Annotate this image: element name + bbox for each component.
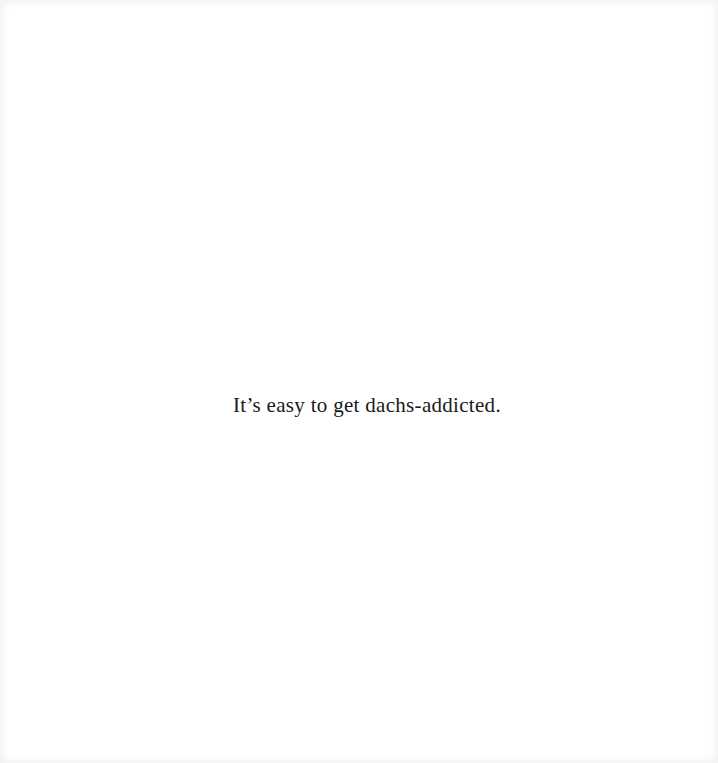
document-page: It’s easy to get dachs-addicted. (0, 0, 718, 763)
caption-text: It’s easy to get dachs-addicted. (0, 391, 718, 419)
